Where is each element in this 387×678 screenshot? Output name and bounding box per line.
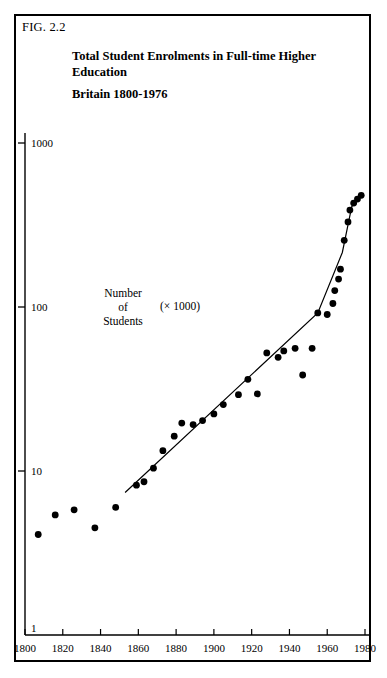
data-point [141, 478, 148, 485]
data-point [345, 219, 352, 226]
data-point [71, 506, 78, 513]
data-point [199, 417, 206, 424]
data-point [275, 354, 282, 361]
data-point [91, 524, 98, 531]
data-point [133, 482, 140, 489]
data-point [263, 349, 270, 356]
y-axis-tick-label: 100 [31, 301, 48, 313]
data-point [254, 391, 261, 398]
data-point [220, 401, 227, 408]
chart-plot-area: 1101001000 18001820184018601880190019201… [0, 0, 387, 678]
data-point [292, 345, 299, 352]
data-point [329, 300, 336, 307]
x-axis-tick-label: 1900 [203, 642, 226, 654]
data-point [346, 207, 353, 214]
data-point [52, 511, 59, 518]
x-axis-tick-label: 1860 [127, 642, 150, 654]
data-point [341, 237, 348, 244]
data-point [324, 311, 331, 318]
data-point [244, 376, 251, 383]
data-point [150, 465, 157, 472]
x-axis-tick-label: 1960 [316, 642, 339, 654]
data-point [299, 372, 306, 379]
y-axis-tick-label: 1000 [31, 137, 54, 149]
data-point [280, 347, 287, 354]
y-axis-tick-label: 1 [31, 622, 37, 634]
x-axis-tick-label: 1920 [241, 642, 264, 654]
x-axis-tick-label: 1940 [278, 642, 301, 654]
data-point [331, 287, 338, 294]
x-axis-tick-label: 1980 [354, 642, 377, 654]
trend-polyline [125, 195, 361, 492]
data-point [178, 420, 185, 427]
data-points [35, 192, 365, 538]
trend-line [125, 195, 361, 492]
x-axis-tick-label: 1880 [165, 642, 188, 654]
data-point [171, 433, 178, 440]
data-point [358, 192, 365, 199]
x-axis-tick-labels: 1800182018401860188019001920194019601980 [14, 642, 377, 654]
data-point [335, 276, 342, 283]
data-point [190, 421, 197, 428]
x-axis-tick-label: 1820 [52, 642, 75, 654]
data-point [210, 410, 217, 417]
data-point [112, 504, 119, 511]
chart-axes [18, 133, 370, 635]
data-point [309, 345, 316, 352]
x-axis-tick-label: 1840 [90, 642, 113, 654]
y-axis-tick-label: 10 [31, 465, 43, 477]
data-point [235, 391, 242, 398]
data-point [35, 531, 42, 538]
y-axis-tick-labels: 1101001000 [31, 137, 54, 634]
data-point [159, 447, 166, 454]
figure-container: FIG. 2.2 Total Student Enrolments in Ful… [0, 0, 387, 678]
data-point [314, 310, 321, 317]
data-point [337, 266, 344, 273]
x-axis-tick-label: 1800 [14, 642, 37, 654]
